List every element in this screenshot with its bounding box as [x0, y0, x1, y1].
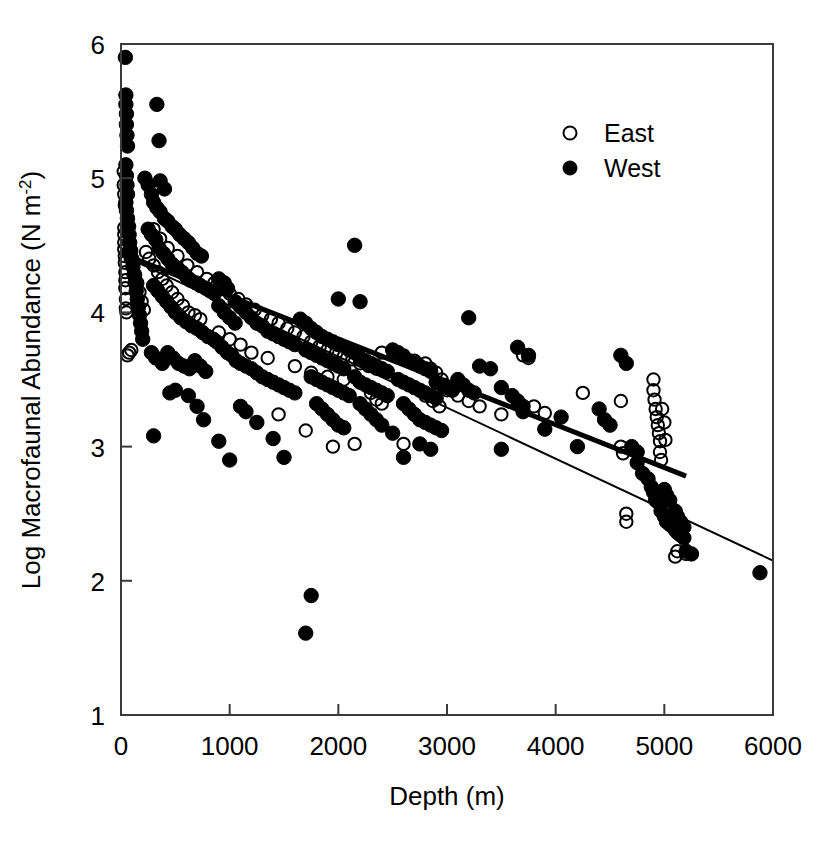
data-point-west: [299, 626, 313, 640]
data-point-west: [199, 364, 213, 378]
y-axis-title-prefix: Log Macrofaunal Abundance (N m: [16, 195, 46, 590]
data-point-west: [347, 238, 361, 252]
data-point-west: [570, 439, 584, 453]
data-point-west: [603, 418, 617, 432]
y-axis-title: Log Macrofaunal Abundance (N m-2): [16, 171, 46, 589]
data-point-west: [288, 386, 302, 400]
data-point-west: [168, 383, 182, 397]
x-tick-label: 4000: [527, 731, 585, 761]
data-point-west: [684, 547, 698, 561]
data-point-west: [434, 423, 448, 437]
data-point-west: [150, 97, 164, 111]
scatter-plot-figure: 0100020003000400050006000 123456 Depth (…: [0, 0, 835, 849]
data-point-west: [521, 348, 535, 362]
data-point-west: [380, 388, 394, 402]
y-tick-label: 5: [91, 164, 105, 194]
y-tick-label: 6: [91, 30, 105, 60]
data-point-west: [228, 316, 242, 330]
data-point-west: [337, 421, 351, 435]
legend-filled-circle-marker: [563, 161, 577, 175]
y-tick-label: 2: [91, 567, 105, 597]
data-point-west: [462, 311, 476, 325]
y-tick-label: 3: [91, 433, 105, 463]
data-point-west: [483, 362, 497, 376]
x-tick-label: 5000: [635, 731, 693, 761]
data-point-west: [331, 292, 345, 306]
legend-label-west: West: [604, 154, 661, 182]
data-point-west: [424, 442, 438, 456]
y-tick-label: 4: [91, 298, 105, 328]
x-tick-label: 0: [114, 731, 128, 761]
data-point-west: [554, 410, 568, 424]
data-point-west: [239, 405, 253, 419]
data-point-west: [353, 294, 367, 308]
data-point-west: [222, 453, 236, 467]
data-point-west: [152, 133, 166, 147]
legend-label-east: East: [604, 119, 654, 147]
data-point-west: [619, 356, 633, 370]
data-point-west: [385, 426, 399, 440]
data-point-west: [190, 399, 204, 413]
data-point-west: [120, 139, 134, 153]
data-point-west: [196, 413, 210, 427]
x-axis-title: Depth (m): [389, 781, 505, 811]
data-point-west: [277, 450, 291, 464]
data-point-west: [250, 415, 264, 429]
data-point-west: [396, 450, 410, 464]
x-tick-label: 2000: [309, 731, 367, 761]
data-point-west: [663, 493, 677, 507]
y-tick-label: 1: [91, 701, 105, 731]
y-axis-title-suffix: ): [16, 171, 46, 180]
data-point-west: [157, 182, 171, 196]
data-point-west: [753, 566, 767, 580]
data-point-west: [194, 249, 208, 263]
x-tick-label: 1000: [201, 731, 259, 761]
x-tick-label: 3000: [418, 731, 476, 761]
data-point-west: [494, 442, 508, 456]
x-tick-label: 6000: [744, 731, 802, 761]
plot-canvas: 0100020003000400050006000 123456 Depth (…: [0, 0, 835, 849]
data-point-west: [266, 431, 280, 445]
y-axis-title-group: Log Macrofaunal Abundance (N m-2): [16, 171, 46, 589]
data-point-west: [146, 429, 160, 443]
data-point-west: [136, 332, 150, 346]
data-point-west: [212, 434, 226, 448]
y-axis-title-superscript: -2: [16, 179, 35, 194]
data-point-west: [304, 588, 318, 602]
